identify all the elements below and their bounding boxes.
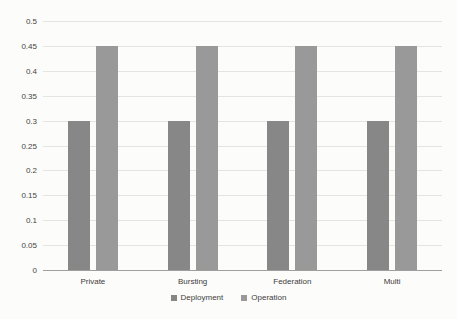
y-tick-label: 0.15 <box>0 191 37 200</box>
legend: DeploymentOperation <box>0 293 457 302</box>
y-tick-label: 0.4 <box>0 66 37 75</box>
bar-group-multi <box>342 21 442 270</box>
x-axis-line <box>43 270 442 271</box>
bar-operation-federation <box>295 46 317 270</box>
bar-deployment-federation <box>267 121 289 270</box>
y-tick-label: 0 <box>0 266 37 275</box>
plot-area <box>43 21 442 270</box>
y-tick-label: 0.5 <box>0 17 37 26</box>
legend-item-deployment: Deployment <box>171 293 224 302</box>
bar-chart: 00.050.10.150.20.250.30.350.40.450.5 Pri… <box>0 0 457 319</box>
bar-deployment-private <box>68 121 90 270</box>
bar-groups <box>43 21 442 270</box>
legend-swatch-icon <box>241 295 247 301</box>
legend-label: Deployment <box>181 293 224 302</box>
y-tick-label: 0.3 <box>0 116 37 125</box>
bar-group-private <box>43 21 143 270</box>
y-axis-labels: 00.050.10.150.20.250.30.350.40.450.5 <box>0 0 37 319</box>
legend-label: Operation <box>251 293 286 302</box>
legend-swatch-icon <box>171 295 177 301</box>
bar-operation-bursting <box>196 46 218 270</box>
x-axis-labels: PrivateBurstingFederationMulti <box>43 277 442 286</box>
bar-deployment-multi <box>367 121 389 270</box>
x-tick-label-multi: Multi <box>342 277 442 286</box>
bar-group-federation <box>243 21 343 270</box>
y-tick-label: 0.1 <box>0 216 37 225</box>
y-tick-label: 0.35 <box>0 91 37 100</box>
y-tick-label: 0.45 <box>0 41 37 50</box>
bar-group-bursting <box>143 21 243 270</box>
bar-deployment-bursting <box>168 121 190 270</box>
bar-operation-private <box>96 46 118 270</box>
x-tick-label-bursting: Bursting <box>143 277 243 286</box>
y-tick-label: 0.2 <box>0 166 37 175</box>
legend-item-operation: Operation <box>241 293 286 302</box>
x-tick-label-federation: Federation <box>243 277 343 286</box>
y-tick-label: 0.05 <box>0 241 37 250</box>
y-tick-label: 0.25 <box>0 141 37 150</box>
x-tick-label-private: Private <box>43 277 143 286</box>
bar-operation-multi <box>395 46 417 270</box>
